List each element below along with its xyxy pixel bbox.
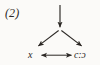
right-node-label: c:ɔ [74, 50, 86, 60]
figure-container: (2) x c:ɔ [0, 0, 100, 65]
figure-number-label: (2) [5, 7, 19, 19]
apex-to-right-arrow [61, 31, 81, 46]
apex-to-left-arrow [38, 31, 58, 46]
left-node-label: x [28, 50, 32, 60]
